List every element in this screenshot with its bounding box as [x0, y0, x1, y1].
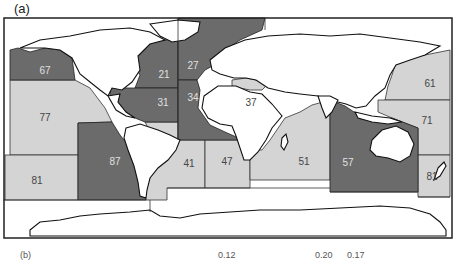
area-label-47: 47: [221, 156, 233, 167]
area-label-81b: 81: [426, 171, 438, 182]
area-label-57: 57: [342, 157, 354, 168]
area-label-27: 27: [187, 60, 199, 71]
area-label-51: 51: [298, 156, 310, 167]
panel-b-label: (b): [20, 250, 31, 260]
area-label-81: 81: [31, 175, 43, 186]
area-label-37: 37: [245, 97, 257, 108]
area-label-67: 67: [39, 65, 51, 76]
panel-b-value-3: 0.17: [347, 250, 365, 260]
panel-b-value-2: 0.20: [315, 250, 333, 260]
area-label-87: 87: [109, 156, 121, 167]
area-label-31: 31: [157, 97, 169, 108]
area-label-34: 34: [187, 92, 199, 103]
area-label-71: 71: [421, 115, 433, 126]
area-label-21: 21: [158, 69, 170, 80]
area-label-41: 41: [183, 158, 195, 169]
panel-b-value-1: 0.12: [218, 250, 236, 260]
area-label-77: 77: [39, 112, 51, 123]
area-label-61: 61: [424, 78, 436, 89]
